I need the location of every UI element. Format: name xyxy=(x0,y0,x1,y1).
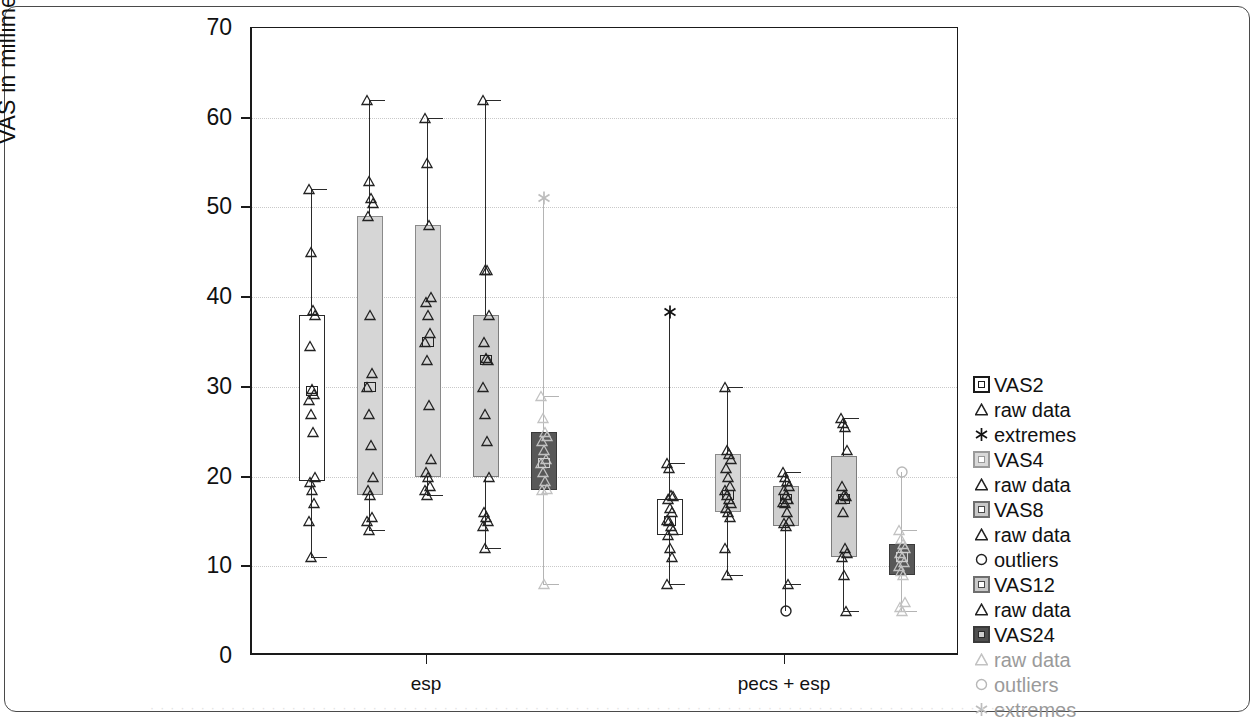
raw-data-point xyxy=(422,157,433,168)
raw-data-point xyxy=(839,570,850,581)
raw-data-point xyxy=(365,310,376,321)
legend-item[interactable]: outliers xyxy=(968,547,1118,572)
raw-data-point xyxy=(781,520,792,531)
box-white-swatch-icon xyxy=(973,376,990,393)
y-axis-label: 60 xyxy=(0,103,232,130)
median-marker xyxy=(364,382,376,392)
triangle-icon xyxy=(968,403,994,416)
triangle-icon xyxy=(968,603,994,616)
figure-caption: · · · · · · · · · · · · · · · · · · · · … xyxy=(150,701,1130,717)
legend-item[interactable]: raw data xyxy=(968,472,1118,497)
raw-data-point xyxy=(537,485,548,496)
raw-data-point xyxy=(368,471,379,482)
median-marker xyxy=(480,355,492,365)
legend-item[interactable]: VAS2 xyxy=(968,372,1118,397)
raw-data-point xyxy=(838,507,849,518)
raw-data-point xyxy=(722,570,733,581)
raw-data-point xyxy=(898,570,909,581)
extreme-point xyxy=(663,305,678,320)
raw-data-point xyxy=(482,435,493,446)
raw-data-point xyxy=(366,440,377,451)
y-axis-label: 70 xyxy=(0,14,232,41)
legend-item[interactable]: outliers xyxy=(968,672,1118,697)
median-marker xyxy=(306,386,318,396)
legend-label: VAS2 xyxy=(994,375,1044,395)
boxplot xyxy=(773,28,799,653)
legend-item[interactable]: extremes xyxy=(968,422,1118,447)
y-axis-tick xyxy=(241,565,250,567)
y-axis-label: 20 xyxy=(0,462,232,489)
median-marker xyxy=(538,458,550,468)
boxplot xyxy=(715,28,741,653)
triangle-icon xyxy=(968,528,994,541)
raw-data-point xyxy=(364,525,375,536)
legend-item[interactable]: raw data xyxy=(968,597,1118,622)
raw-data-point xyxy=(304,516,315,527)
raw-data-point xyxy=(664,462,675,473)
box-mid-swatch-icon xyxy=(973,576,990,593)
outlier-point xyxy=(896,466,909,479)
box-iqr xyxy=(415,225,441,476)
triangle-icon xyxy=(968,478,994,491)
legend-item[interactable]: VAS4 xyxy=(968,447,1118,472)
raw-data-point xyxy=(484,310,495,321)
legend-item[interactable]: VAS8 xyxy=(968,497,1118,522)
legend-item[interactable]: raw data xyxy=(968,397,1118,422)
x-axis-label: pecs + esp xyxy=(738,673,830,695)
y-axis-label: 30 xyxy=(0,372,232,399)
raw-data-point xyxy=(783,579,794,590)
raw-data-point xyxy=(841,606,852,617)
raw-data-point xyxy=(840,422,851,433)
raw-data-point xyxy=(305,341,316,352)
raw-data-point xyxy=(720,381,731,392)
legend-label: outliers xyxy=(994,675,1058,695)
raw-data-point xyxy=(308,426,319,437)
boxplot xyxy=(889,28,915,653)
raw-data-point xyxy=(667,552,678,563)
y-axis-label: 10 xyxy=(0,552,232,579)
raw-data-point xyxy=(420,112,431,123)
raw-data-point xyxy=(426,453,437,464)
legend-label: raw data xyxy=(994,400,1071,420)
plot-area xyxy=(250,27,958,655)
legend-label: raw data xyxy=(994,600,1071,620)
swatch-inner xyxy=(978,581,985,588)
raw-data-point xyxy=(310,310,321,321)
legend-label: raw data xyxy=(994,525,1071,545)
raw-data-point xyxy=(484,471,495,482)
legend-label: extremes xyxy=(994,425,1076,445)
legend-item[interactable]: VAS24 xyxy=(968,622,1118,647)
y-axis-tick xyxy=(241,296,250,298)
raw-data-point xyxy=(365,489,376,500)
box-light-swatch-icon xyxy=(973,451,990,468)
raw-data-point xyxy=(363,211,374,222)
raw-data-point xyxy=(421,296,432,307)
raw-data-point xyxy=(364,175,375,186)
raw-data-point xyxy=(362,94,373,105)
boxplot xyxy=(473,28,499,653)
raw-data-point xyxy=(424,399,435,410)
raw-data-point xyxy=(364,408,375,419)
legend-item[interactable]: VAS12 xyxy=(968,572,1118,597)
raw-data-point xyxy=(306,408,317,419)
raw-data-point xyxy=(423,310,434,321)
legend-item[interactable]: raw data xyxy=(968,647,1118,672)
median-marker xyxy=(664,516,676,526)
raw-data-point xyxy=(837,552,848,563)
x-axis-label: esp xyxy=(411,673,442,695)
boxplot xyxy=(831,28,857,653)
legend-swatch xyxy=(968,501,994,518)
median-marker xyxy=(896,552,908,562)
median-marker xyxy=(838,494,850,504)
boxplot xyxy=(531,28,557,653)
raw-data-point xyxy=(720,543,731,554)
raw-data-point xyxy=(480,408,491,419)
x-axis-tick xyxy=(426,655,427,664)
swatch-inner xyxy=(978,381,985,388)
y-axis-tick xyxy=(241,117,250,119)
legend-item[interactable]: raw data xyxy=(968,522,1118,547)
raw-data-point xyxy=(422,489,433,500)
boxplot xyxy=(299,28,325,653)
legend-label: raw data xyxy=(994,475,1071,495)
raw-data-point xyxy=(663,529,674,540)
